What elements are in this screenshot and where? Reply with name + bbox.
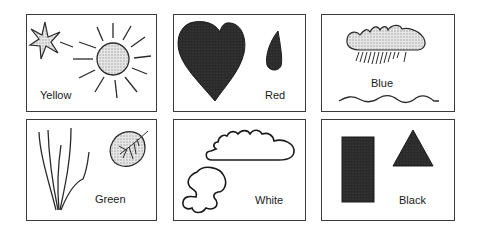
triangle-icon bbox=[393, 130, 433, 166]
black-illustration bbox=[322, 120, 456, 222]
card-yellow: Yellow bbox=[26, 14, 157, 112]
puddle-icon bbox=[183, 167, 226, 212]
card-black: Black bbox=[321, 119, 455, 221]
card-blue: Blue bbox=[321, 14, 455, 112]
drop-icon bbox=[267, 31, 282, 70]
card-label: White bbox=[255, 194, 283, 206]
rain-cloud-icon bbox=[347, 25, 425, 64]
heart-icon bbox=[178, 22, 245, 101]
cloud-icon bbox=[206, 130, 294, 160]
white-illustration bbox=[174, 120, 307, 222]
card-label: Red bbox=[265, 89, 285, 101]
card-red: Red bbox=[173, 14, 306, 112]
star-icon bbox=[30, 22, 73, 59]
red-illustration bbox=[174, 15, 307, 113]
green-illustration bbox=[27, 120, 158, 222]
card-green: Green bbox=[26, 119, 157, 221]
card-label: Green bbox=[95, 193, 126, 205]
card-label: Yellow bbox=[40, 89, 71, 101]
blue-illustration bbox=[322, 15, 456, 113]
card-label: Black bbox=[399, 194, 426, 206]
wave-icon bbox=[339, 96, 439, 103]
rectangle-icon bbox=[342, 137, 374, 202]
card-white: White bbox=[173, 119, 306, 221]
sun-icon bbox=[73, 23, 151, 98]
grass-icon bbox=[39, 128, 89, 210]
leaf-icon bbox=[110, 131, 148, 166]
card-label: Blue bbox=[371, 77, 393, 89]
